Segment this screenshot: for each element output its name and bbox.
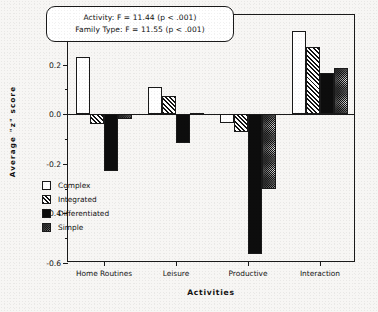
x-tick-label: Leisure (163, 269, 190, 278)
y-tick-major (63, 263, 68, 264)
bar-simple-productive (262, 114, 276, 188)
legend-label: Integrated (58, 195, 97, 204)
y-tick-minor (65, 238, 68, 239)
bar-differentiated-productive (248, 114, 262, 254)
bar-differentiated-home-routines (104, 114, 118, 171)
y-tick-label: -0.2 (46, 159, 61, 168)
legend-item-integrated: Integrated (42, 192, 109, 206)
legend-swatch-differentiated-icon (42, 209, 51, 218)
legend-swatch-simple-icon (42, 223, 51, 232)
bar-integrated-home-routines (90, 114, 104, 124)
bar-complex-home-routines (76, 57, 90, 114)
statistics-annotation-box: Activity: F = 11.44 (p < .001) Family Ty… (46, 6, 234, 42)
bar-complex-interaction (292, 31, 306, 114)
x-axis-title: Activities (67, 288, 355, 297)
bar-simple-interaction (334, 68, 348, 114)
x-tick (104, 261, 105, 266)
y-tick-label: -0.6 (46, 259, 61, 268)
annotation-line-activity: Activity: F = 11.44 (p < .001) (51, 12, 229, 24)
legend-label: Simple (58, 223, 83, 232)
plot-area: 0.40.20.0-0.2-0.4-0.6 Home RoutinesLeisu… (67, 14, 355, 262)
y-tick-minor (65, 89, 68, 90)
bar-simple-home-routines (118, 114, 132, 119)
bar-complex-leisure (148, 87, 162, 114)
y-tick-major (63, 65, 68, 66)
y-tick-major (63, 114, 68, 115)
bar-integrated-interaction (306, 47, 320, 114)
x-tick-label: Home Routines (76, 269, 132, 278)
legend-item-differentiated: Differentiated (42, 206, 109, 220)
chart-figure: Average "z" score 0.40.20.0-0.2-0.4-0.6 … (0, 0, 378, 312)
y-tick-minor (65, 139, 68, 140)
y-tick-label: 0.0 (49, 110, 61, 119)
bar-integrated-leisure (162, 96, 176, 115)
bar-integrated-productive (234, 114, 248, 131)
bar-differentiated-leisure (176, 114, 190, 143)
legend-label: Complex (58, 181, 90, 190)
x-tick-label: Productive (228, 269, 267, 278)
bar-differentiated-interaction (320, 73, 334, 114)
x-tick (248, 261, 249, 266)
y-tick-major (63, 164, 68, 165)
x-tick-label: Interaction (300, 269, 340, 278)
y-axis-title-text: Average "z" score (9, 85, 18, 176)
legend-swatch-complex-icon (42, 181, 51, 190)
y-axis-title: Average "z" score (0, 0, 26, 262)
legend-label: Differentiated (58, 209, 109, 218)
legend-item-complex: Complex (42, 178, 109, 192)
legend-swatch-integrated-icon (42, 195, 51, 204)
chart-legend: ComplexIntegratedDifferentiatedSimple (42, 178, 109, 234)
annotation-line-family-type: Family Type: F = 11.55 (p < .001) (51, 24, 229, 36)
x-tick (320, 261, 321, 266)
x-tick (176, 261, 177, 266)
y-tick-label: 0.2 (49, 60, 61, 69)
bar-simple-leisure (190, 113, 204, 115)
bar-complex-productive (220, 114, 234, 123)
legend-item-simple: Simple (42, 220, 109, 234)
